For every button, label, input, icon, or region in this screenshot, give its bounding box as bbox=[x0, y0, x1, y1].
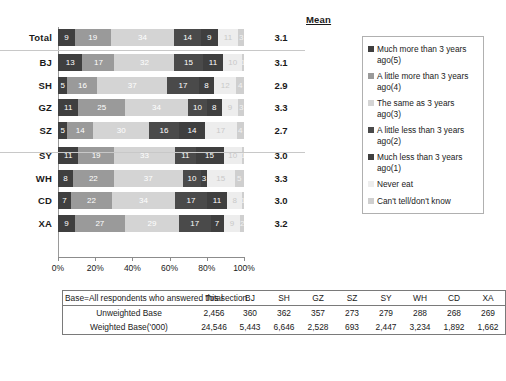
bar-segment: 14 bbox=[67, 122, 93, 139]
bar-segment: 9 bbox=[224, 215, 241, 232]
x-axis-tick-label: 100% bbox=[233, 263, 255, 273]
row-label-cd: CD bbox=[0, 195, 58, 206]
x-axis-line bbox=[58, 257, 244, 258]
table-cell: 3,234 bbox=[403, 320, 437, 335]
legend-label: Never eat bbox=[377, 179, 413, 190]
legend-item[interactable]: Much less than 3 years ago(1) bbox=[368, 152, 478, 173]
table-column-header: SH bbox=[267, 291, 301, 306]
bar-segment: 25 bbox=[78, 99, 125, 116]
legend-swatch-icon bbox=[368, 127, 374, 133]
bar-segment: 8 bbox=[207, 99, 222, 116]
bar-segment: 2 bbox=[240, 215, 244, 232]
table-row: Unweighted Base2,45636036235727327928826… bbox=[63, 306, 506, 321]
legend-box: Much more than 3 years ago(5)A little mo… bbox=[362, 36, 484, 214]
legend-item[interactable]: Can't tell/don't know bbox=[368, 196, 478, 207]
bar-segment: 17 bbox=[175, 192, 207, 209]
table-cell: 288 bbox=[403, 306, 437, 321]
x-axis-tick bbox=[170, 257, 171, 261]
x-axis-tick bbox=[207, 257, 208, 261]
legend-swatch-icon bbox=[368, 154, 374, 160]
bar-segment: 7 bbox=[211, 215, 224, 232]
bar-segment: 11 bbox=[58, 99, 78, 116]
legend-label: A little more than 3 years ago(4) bbox=[377, 71, 478, 92]
bar-segment: 37 bbox=[97, 77, 167, 94]
legend-item[interactable]: A little less than 3 years ago(2) bbox=[368, 125, 478, 146]
legend-swatch-icon bbox=[368, 100, 374, 106]
table-corner-label: Base=All respondents who answered this s… bbox=[63, 291, 196, 306]
stacked-bar: 91934149113 bbox=[58, 29, 244, 46]
legend-label: The same as 3 years ago(3) bbox=[377, 98, 478, 119]
bar-segment: 5 bbox=[235, 170, 244, 187]
stacked-bar: 9272917792 bbox=[58, 215, 244, 232]
bar-segment: 4 bbox=[237, 122, 244, 139]
table-cell: 268 bbox=[437, 306, 471, 321]
bar-segment: 10 bbox=[223, 54, 242, 71]
bar-segment: 34 bbox=[111, 29, 175, 46]
bar-segment: 13 bbox=[58, 54, 82, 71]
table-row-label: Weighted Base('000) bbox=[63, 320, 196, 335]
base-table-container: Base=All respondents who answered this s… bbox=[62, 290, 460, 335]
table-column-header: CD bbox=[437, 291, 471, 306]
legend-item[interactable]: Much more than 3 years ago(5) bbox=[368, 44, 478, 65]
chart-row: Total919341491133.1 bbox=[0, 27, 360, 47]
stacked-bar: 51637178124 bbox=[58, 77, 244, 94]
table-cell: 357 bbox=[301, 306, 335, 321]
bar-segment: 1 bbox=[242, 147, 244, 164]
table-cell: 2,447 bbox=[369, 320, 403, 335]
legend-item[interactable]: Never eat bbox=[368, 179, 478, 190]
bar-segment: 17 bbox=[82, 54, 114, 71]
x-axis-tick bbox=[95, 257, 96, 261]
table-cell: 2,456 bbox=[195, 306, 233, 321]
bar-segment: 14 bbox=[179, 122, 205, 139]
chart-row: WH822371031553.3 bbox=[0, 168, 360, 188]
legend-swatch-icon bbox=[368, 73, 374, 79]
stacked-bar: 72234171181 bbox=[58, 192, 244, 209]
table-cell: 693 bbox=[335, 320, 369, 335]
table-column-header: SZ bbox=[335, 291, 369, 306]
x-axis-tick-labels: 0%20%40%60%80%100% bbox=[0, 263, 360, 277]
bar-segment: 7 bbox=[58, 192, 71, 209]
row-label-sh: SH bbox=[0, 80, 58, 91]
legend-item[interactable]: The same as 3 years ago(3) bbox=[368, 98, 478, 119]
table-row-label: Unweighted Base bbox=[63, 306, 196, 321]
bar-segment: 10 bbox=[224, 147, 243, 164]
stacked-bar: 1119331115101 bbox=[58, 147, 244, 164]
bar-segment: 11 bbox=[203, 54, 224, 71]
bar-segment: 34 bbox=[125, 99, 188, 116]
table-cell: 2,528 bbox=[301, 320, 335, 335]
stacked-bar-chart: Mean Total919341491133.1BJ13173215111013… bbox=[0, 0, 360, 285]
legend-item[interactable]: A little more than 3 years ago(4) bbox=[368, 71, 478, 92]
chart-rows: Total919341491133.1BJ13173215111013.1SH5… bbox=[0, 27, 360, 236]
bar-segment: 16 bbox=[149, 122, 179, 139]
table-cell: 269 bbox=[471, 306, 506, 321]
bar-segment: 8 bbox=[227, 192, 242, 209]
bar-segment: 17 bbox=[179, 215, 211, 232]
x-axis-tick bbox=[244, 257, 245, 261]
bar-segment: 9 bbox=[58, 215, 75, 232]
bar-segment: 34 bbox=[112, 192, 175, 209]
bar-segment: 3 bbox=[238, 29, 244, 46]
stacked-bar: 1317321511101 bbox=[58, 54, 244, 71]
row-label-xa: XA bbox=[0, 218, 58, 229]
mean-column-header: Mean bbox=[306, 14, 331, 25]
mean-value: 3.3 bbox=[258, 102, 304, 113]
bar-segment: 22 bbox=[73, 170, 114, 187]
bar-segment: 29 bbox=[125, 215, 179, 232]
bar-segment: 15 bbox=[196, 147, 224, 164]
table-row: Weighted Base('000)24,5465,4436,6462,528… bbox=[63, 320, 506, 335]
table-cell: 279 bbox=[369, 306, 403, 321]
x-axis-tick-label: 20% bbox=[87, 263, 104, 273]
bar-segment: 12 bbox=[214, 77, 237, 94]
table-column-header: WH bbox=[403, 291, 437, 306]
table-cell: 1,892 bbox=[437, 320, 471, 335]
bar-segment: 8 bbox=[58, 170, 73, 187]
chart-row: XA92729177923.2 bbox=[0, 213, 360, 233]
row-label-gz: GZ bbox=[0, 102, 58, 113]
bar-segment: 5 bbox=[58, 77, 67, 94]
table-cell: 1,662 bbox=[471, 320, 506, 335]
bar-segment: 33 bbox=[114, 147, 175, 164]
table-column-header: GZ bbox=[301, 291, 335, 306]
mean-value: 3.1 bbox=[258, 57, 304, 68]
table-cell: 273 bbox=[335, 306, 369, 321]
x-axis-tick bbox=[58, 257, 59, 261]
